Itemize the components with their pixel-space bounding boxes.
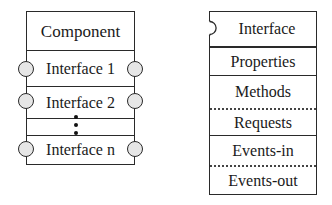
component-title: Component	[41, 23, 120, 40]
interface-title: Interface	[239, 21, 296, 37]
component-box: Component Interface 1 Interface 2 Interf…	[26, 11, 135, 165]
section-methods: Methods	[210, 75, 316, 108]
interface-label: Interface 1	[46, 61, 115, 77]
interface-row-n: Interface n	[27, 135, 134, 164]
component-title-row: Component	[27, 12, 134, 50]
ellipsis-dot-icon	[74, 123, 78, 127]
section-label: Methods	[235, 84, 291, 100]
socket-notch-icon	[205, 20, 219, 36]
port-circle-icon	[127, 61, 143, 77]
ellipsis-dot-icon	[74, 131, 78, 135]
section-requests: Requests	[210, 108, 316, 135]
ellipsis-dot-icon	[74, 115, 78, 119]
ellipsis-row	[27, 118, 134, 135]
section-label: Requests	[234, 115, 292, 131]
port-circle-icon	[18, 93, 34, 109]
interface-box: Interface Properties Methods Requests Ev…	[209, 11, 317, 195]
interface-label: Interface n	[46, 142, 115, 158]
interface-row-1: Interface 1	[27, 50, 134, 86]
interface-title-row: Interface	[210, 12, 316, 46]
interface-label: Interface 2	[46, 95, 115, 111]
port-circle-icon	[18, 61, 34, 77]
section-events-in: Events-in	[210, 135, 316, 165]
section-label: Events-out	[228, 173, 297, 189]
section-label: Events-in	[232, 143, 293, 159]
section-properties: Properties	[210, 46, 316, 75]
port-circle-icon	[127, 93, 143, 109]
port-circle-icon	[18, 141, 34, 157]
interface-row-2: Interface 2	[27, 86, 134, 118]
section-label: Properties	[231, 54, 296, 70]
port-circle-icon	[127, 141, 143, 157]
section-events-out: Events-out	[210, 165, 316, 194]
